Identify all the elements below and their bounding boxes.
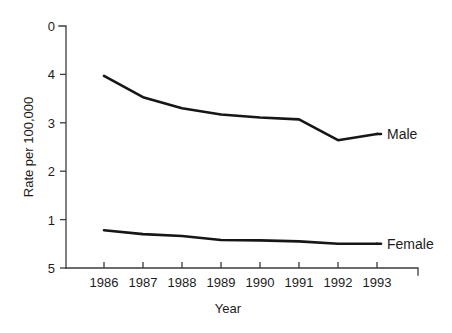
y-tick-label-2: 2 — [48, 164, 55, 179]
y-tick-label-4: 4 — [48, 67, 55, 82]
x-tick-label-1988: 1988 — [168, 275, 197, 290]
series-line-female — [104, 230, 377, 244]
x-axis-title: Year — [215, 301, 242, 316]
y-axis-line — [59, 26, 66, 268]
x-axis-line — [66, 268, 418, 275]
x-tick-marks — [104, 262, 377, 268]
y-tick-label-3: 3 — [48, 116, 55, 131]
x-tick-label-1991: 1991 — [285, 275, 314, 290]
series-line-male — [104, 76, 377, 140]
y-tick-marks — [60, 74, 66, 268]
x-tick-label-1989: 1989 — [207, 275, 236, 290]
x-tick-label-1993: 1993 — [363, 275, 392, 290]
x-tick-label-1990: 1990 — [246, 275, 275, 290]
y-tick-label-0: 0 — [48, 19, 55, 34]
series-label-female: Female — [387, 236, 434, 252]
line-chart-figure: 0 1 2 3 4 5 1986 1987 1988 1989 1990 199… — [0, 0, 452, 333]
y-axis-title: Rate per 100,000 — [21, 97, 36, 197]
y-tick-label-5: 5 — [48, 261, 55, 276]
series-label-male: Male — [387, 126, 418, 142]
x-tick-label-1992: 1992 — [324, 275, 353, 290]
x-tick-label-1986: 1986 — [90, 275, 119, 290]
x-tick-label-1987: 1987 — [129, 275, 158, 290]
y-tick-label-1: 1 — [48, 213, 55, 228]
chart-plot-area: 0 1 2 3 4 5 1986 1987 1988 1989 1990 199… — [0, 0, 452, 333]
